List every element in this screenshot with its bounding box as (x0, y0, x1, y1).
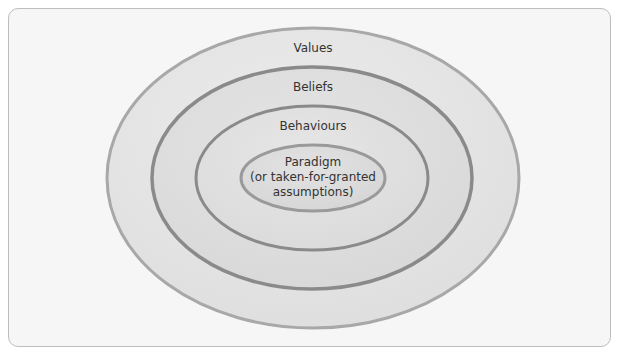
behaviours-label: Behaviours (279, 119, 346, 134)
values-label: Values (293, 41, 332, 56)
paradigm-line-3: assumptions) (250, 185, 376, 200)
paradigm-line-1: Paradigm (250, 155, 376, 170)
paradigm-label: Paradigm (or taken-for-granted assumptio… (250, 155, 376, 200)
paradigm-line-2: (or taken-for-granted (250, 170, 376, 185)
beliefs-label: Beliefs (293, 80, 333, 95)
